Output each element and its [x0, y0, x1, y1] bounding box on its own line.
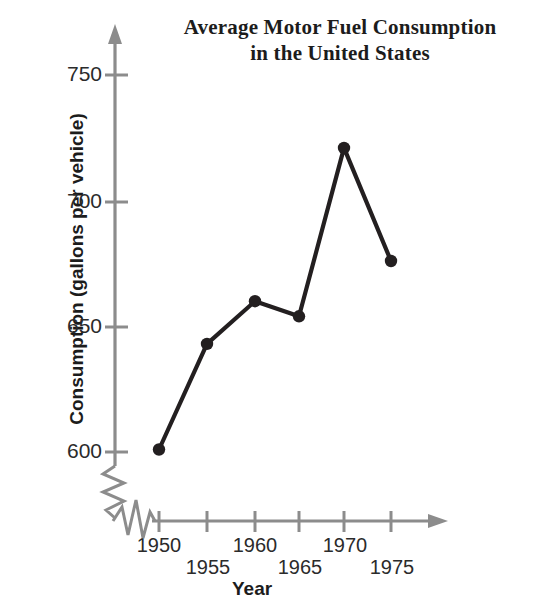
series-marker-1975: [385, 255, 397, 267]
series-marker-1950: [153, 443, 165, 455]
series-marker-1970: [338, 142, 350, 154]
x-axis-arrow-icon: [428, 514, 448, 528]
x-axis: [113, 500, 448, 538]
series-marker-1965: [293, 310, 305, 322]
data-series: [153, 142, 397, 456]
plot-area: [0, 0, 539, 609]
chart-figure: Average Motor Fuel Consumption in the Un…: [0, 0, 539, 609]
y-axis: [103, 24, 128, 518]
y-axis-arrow-icon: [108, 24, 122, 44]
x-axis-break-zigzag-icon: [113, 500, 155, 538]
series-line: [159, 148, 391, 450]
series-marker-1960: [249, 295, 261, 307]
series-marker-1955: [201, 338, 213, 350]
